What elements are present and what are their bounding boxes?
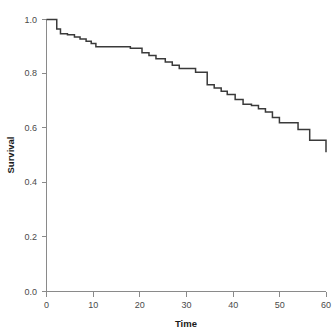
y-tick-label: 0.6 bbox=[24, 123, 37, 133]
survival-chart-figure: 0.0 0.2 0.4 0.6 0.8 1.0 0 10 20 30 40 50… bbox=[0, 0, 336, 334]
y-tick-label: 0.8 bbox=[24, 68, 37, 78]
x-tick-label: 40 bbox=[228, 300, 238, 310]
y-tick-label: 0.2 bbox=[24, 232, 37, 242]
y-tick-label: 0.4 bbox=[24, 177, 37, 187]
kaplan-meier-plot: 0.0 0.2 0.4 0.6 0.8 1.0 0 10 20 30 40 50… bbox=[0, 0, 336, 334]
x-tick-label: 10 bbox=[88, 300, 98, 310]
y-axis-title: Survival bbox=[5, 137, 16, 174]
x-tick-label: 0 bbox=[44, 300, 49, 310]
x-tick-label: 50 bbox=[275, 300, 285, 310]
x-tick-label: 20 bbox=[135, 300, 145, 310]
y-tick-label: 0.0 bbox=[24, 287, 37, 297]
x-axis-title: Time bbox=[175, 318, 197, 329]
chart-background bbox=[0, 0, 336, 334]
x-tick-label: 60 bbox=[321, 300, 331, 310]
y-tick-label: 1.0 bbox=[24, 15, 37, 25]
x-tick-label: 30 bbox=[181, 300, 191, 310]
